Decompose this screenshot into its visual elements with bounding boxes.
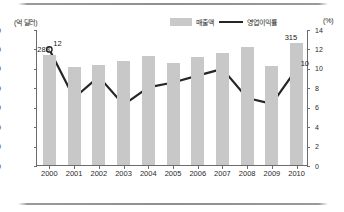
left-axis-tick [34, 88, 37, 89]
bar [117, 61, 130, 165]
right-axis-unit-label: (%) [323, 17, 333, 24]
left-axis-tick-label: 300 [0, 46, 1, 53]
top-divider-rule [18, 3, 328, 5]
right-axis-tick [307, 147, 310, 148]
right-axis-tick-label: 2 [315, 143, 339, 150]
bar-swatch-icon [170, 18, 192, 26]
left-axis-tick-label: 150 [0, 104, 1, 111]
left-axis-tick [34, 30, 37, 31]
bar [241, 47, 254, 165]
right-axis-tick [307, 49, 310, 50]
left-axis-tick [34, 69, 37, 70]
legend-label-operating-margin: 영업이익률 [247, 17, 276, 27]
right-axis-tick-label: 6 [315, 104, 339, 111]
bar-value-label: 283 [37, 46, 50, 54]
chart-plot-area: 0501001502002503003500246810121420002832… [36, 30, 308, 166]
right-axis-tick-label: 10 [315, 65, 339, 72]
bar [216, 53, 229, 165]
left-axis-tick-label: 0 [0, 163, 1, 170]
right-axis-tick-label: 0 [315, 163, 339, 170]
right-axis-tick-label: 12 [315, 46, 339, 53]
left-axis-tick [34, 127, 37, 128]
legend-item-sales: 매출액 [170, 17, 213, 27]
line-value-label: 12 [53, 40, 61, 48]
left-axis-tick-label: 250 [0, 65, 1, 72]
right-axis-tick [307, 127, 310, 128]
bar [265, 66, 278, 165]
chart-plot-wrapper: (억 달러) (%) 매출액 영업이익률 0501001502002503003… [0, 14, 344, 194]
right-axis-tick [307, 88, 310, 89]
left-axis-unit-label: (억 달러) [14, 17, 37, 27]
left-axis-tick [34, 108, 37, 109]
bar [43, 55, 56, 165]
bar [167, 63, 180, 165]
x-axis-tick-label: 2010 [282, 170, 312, 178]
left-axis-tick [34, 166, 37, 167]
bar [92, 65, 105, 165]
right-axis-tick [307, 69, 310, 70]
bar [191, 57, 204, 165]
left-axis-tick [34, 147, 37, 148]
right-axis-tick [307, 166, 310, 167]
left-axis-tick-label: 100 [0, 124, 1, 131]
right-axis-tick-label: 4 [315, 124, 339, 131]
left-axis-tick-label: 50 [0, 143, 1, 150]
right-axis-tick [307, 108, 310, 109]
bottom-divider-rule [18, 203, 328, 205]
right-axis-tick [307, 30, 310, 31]
chart-figure: (억 달러) (%) 매출액 영업이익률 0501001502002503003… [0, 0, 344, 212]
right-axis-tick-label: 8 [315, 85, 339, 92]
chart-legend: 매출액 영업이익률 [170, 16, 276, 28]
bar [68, 67, 81, 165]
bar [142, 56, 155, 165]
line-swatch-icon [219, 21, 243, 23]
right-axis-tick-label: 14 [315, 27, 339, 34]
legend-label-sales: 매출액 [196, 17, 213, 27]
left-axis-tick-label: 350 [0, 27, 1, 34]
left-axis-tick-label: 200 [0, 85, 1, 92]
bar-value-label: 315 [285, 34, 298, 42]
line-value-label: 10 [301, 60, 309, 68]
legend-item-operating-margin: 영업이익률 [219, 17, 276, 27]
